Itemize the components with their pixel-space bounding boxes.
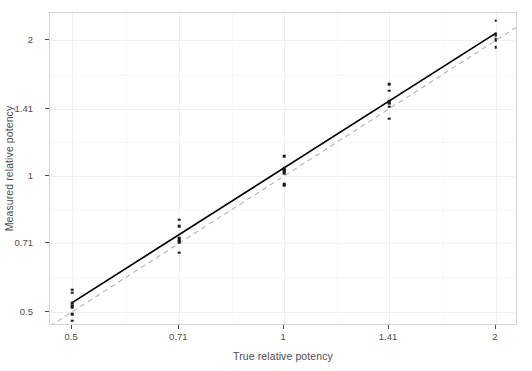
y-tick-label-2: 2 [28,34,33,45]
x-tick-mark-1 [283,325,284,329]
data-point [71,306,74,309]
y-tick-label-1: 1 [28,170,33,181]
data-point [71,313,74,316]
data-point [388,83,391,86]
x-tick-label-0.71: 0.71 [169,331,188,342]
data-point [178,218,181,221]
data-points-layer [50,13,516,324]
y-tick-label-1.41: 1.41 [15,102,34,113]
data-point [178,251,181,254]
y-tick-label-0.5: 0.5 [20,305,33,316]
x-tick-label-1: 1 [280,331,285,342]
data-point [178,241,181,244]
x-tick-mark-0.5 [71,325,72,329]
x-tick-mark-1.41 [388,325,389,329]
data-point [71,319,74,322]
data-point [283,184,286,187]
scatter-plot-figure: Measured relative potency 0.50.7111.412 … [0,0,532,371]
y-tick-label-0.71: 0.71 [15,237,34,248]
data-point [178,225,181,228]
data-point [283,172,286,175]
plot-panel [49,12,517,325]
x-tick-label-0.5: 0.5 [65,331,78,342]
data-point [283,155,286,158]
data-point [71,291,74,294]
data-point [495,40,498,43]
data-point [388,117,391,120]
x-axis-title: True relative potency [49,350,517,362]
x-tick-label-1.41: 1.41 [379,331,398,342]
y-axis-ticks: 0.50.7111.412 [0,0,41,371]
data-point [388,106,391,109]
data-point [388,90,391,93]
data-point [495,46,498,49]
x-tick-label-2: 2 [492,331,497,342]
x-tick-mark-2 [495,325,496,329]
data-point [495,34,498,37]
data-point [495,20,498,23]
x-tick-mark-0.71 [178,325,179,329]
